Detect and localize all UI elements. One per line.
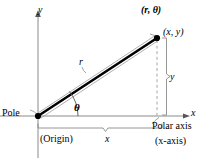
x-axis-alias-label: (x-axis)	[155, 136, 186, 146]
radius-outline-upper	[38, 35, 156, 113]
radius-label: r	[79, 57, 83, 67]
point-rectangular-label: (x, y)	[163, 27, 184, 37]
pole-point-dot	[35, 113, 41, 119]
origin-label: (Origin)	[40, 134, 73, 144]
horizontal-leg-label: x	[105, 134, 109, 144]
point-polar-label: (r, θ)	[141, 5, 161, 15]
polar-axis-label: Polar axis	[152, 121, 192, 131]
polar-coordinates-figure: y x (r, θ) (x, y) r θ y x Pole (Origin) …	[0, 0, 199, 158]
plotted-point-dot	[154, 35, 160, 41]
vertical-leg-label: y	[170, 72, 174, 82]
radius-outline-lower	[41, 40, 159, 118]
y-axis-label: y	[38, 5, 42, 15]
x-axis-label: x	[191, 108, 195, 118]
pole-label: Pole	[2, 108, 20, 118]
radius-label-leader-line	[82, 67, 86, 73]
x-axis-arrowhead-icon	[183, 113, 190, 118]
x-measure-brace	[38, 124, 162, 132]
angle-theta-label: θ	[74, 102, 80, 113]
radius-segment	[38, 38, 157, 116]
y-measure-brace	[163, 38, 171, 115]
pole-leader-line	[30, 110, 37, 114]
